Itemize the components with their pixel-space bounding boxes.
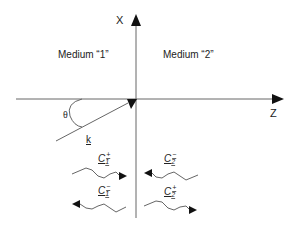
x-axis-arrow-icon xyxy=(131,14,141,26)
z-axis: Z xyxy=(16,94,284,119)
medium-1-label: Medium “1” xyxy=(58,49,109,60)
theta-arc xyxy=(69,99,82,127)
wave-c2-plus-label: C2+ xyxy=(164,184,176,198)
x-axis-label: X xyxy=(116,14,124,26)
wave-c2-plus: C2+ xyxy=(144,184,197,214)
x-axis: X xyxy=(116,14,141,218)
wave-c1-minus-label: C1− xyxy=(98,183,110,197)
interface-diagram: X Z Medium “1” Medium “2” θ k C1+ C1− xyxy=(0,0,296,231)
z-axis-arrow-icon xyxy=(272,94,284,104)
wave-c2-minus: C2− xyxy=(144,151,198,180)
wave-c2-minus-label: C2− xyxy=(164,151,176,165)
theta-label: θ xyxy=(63,109,68,120)
arrow-left-icon xyxy=(72,200,80,208)
medium-2-label: Medium “2” xyxy=(163,49,214,60)
arrow-right-icon xyxy=(119,172,127,180)
arrow-left-icon xyxy=(144,169,152,177)
wave-c1-plus-label: C1+ xyxy=(98,151,110,165)
k-vector-label: k xyxy=(86,134,92,145)
arrow-right-icon xyxy=(189,206,197,214)
z-axis-label: Z xyxy=(270,107,277,119)
wave-c1-plus: C1+ xyxy=(72,151,127,180)
wave-c1-minus: C1− xyxy=(72,183,126,212)
incident-wave-vector: θ k xyxy=(56,99,137,145)
